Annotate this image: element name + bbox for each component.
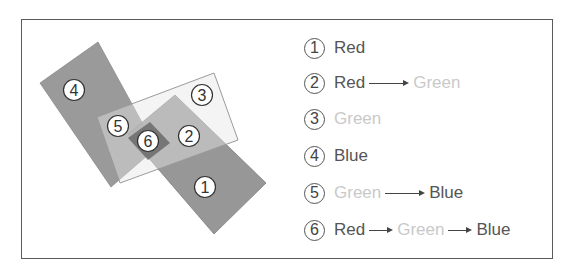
marker-2-label: 2 [185,128,194,145]
legend-item-6: 6 Red Green Blue [304,217,510,243]
legend-item-3: 3 Green [304,106,381,132]
legend-label-blue: Blue [476,220,510,240]
legend-number-1: 1 [304,38,325,59]
marker-1-label: 1 [201,179,210,196]
legend-number-6: 6 [304,220,325,241]
legend-label-blue: Blue [334,146,368,166]
legend-number-5: 5 [304,183,325,204]
marker-3: 3 [192,85,213,106]
marker-1: 1 [195,177,216,198]
legend-label-blue: Blue [429,183,463,203]
legend-label-green: Green [397,220,444,240]
legend-number-2: 2 [304,73,325,94]
legend-label-green: Green [334,109,381,129]
legend-item-5: 5 Green Blue [304,180,463,206]
arrow-right-icon [385,188,425,198]
marker-4-label: 4 [70,82,79,99]
marker-4: 4 [64,80,85,101]
marker-6: 6 [138,131,159,152]
legend-label-green: Green [334,183,381,203]
legend-label-red: Red [334,73,365,93]
legend-label-green: Green [413,73,460,93]
legend-number-4: 4 [304,146,325,167]
marker-5-label: 5 [114,118,123,135]
arrow-right-icon [369,78,409,88]
marker-6-label: 6 [144,133,153,150]
legend-item-4: 4 Blue [304,143,368,169]
legend-item-1: 1 Red [304,35,365,61]
arrow-right-icon [448,225,472,235]
arrow-right-icon [369,225,393,235]
marker-5: 5 [108,116,129,137]
marker-2: 2 [179,126,200,147]
legend-number-3: 3 [304,109,325,130]
legend-label-red: Red [334,220,365,240]
legend-item-2: 2 Red Green [304,70,460,96]
marker-3-label: 3 [198,87,207,104]
legend-label-red: Red [334,38,365,58]
